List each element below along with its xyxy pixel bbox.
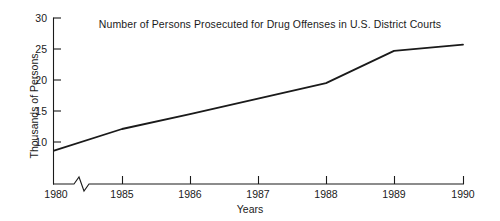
y-tick-marks <box>54 18 62 142</box>
y-tick-label-25: 25 <box>35 43 47 55</box>
x-tick-label-1988: 1988 <box>314 188 338 200</box>
chart-figure: Number of Persons Prosecuted for Drug Of… <box>0 0 500 221</box>
x-tick-label-1980: 1980 <box>44 188 68 200</box>
y-tick-label-15: 15 <box>35 105 47 117</box>
x-tick-marks <box>123 176 464 184</box>
x-tick-label-1989: 1989 <box>382 188 406 200</box>
y-tick-label-30: 30 <box>35 12 47 24</box>
x-tick-label-1985: 1985 <box>110 188 134 200</box>
x-tick-label-1986: 1986 <box>178 188 202 200</box>
y-tick-label-10: 10 <box>35 136 47 148</box>
plot-area: 30 25 20 15 10 1980 1985 1986 1987 1988 … <box>0 0 500 221</box>
x-tick-label-1987: 1987 <box>246 188 270 200</box>
data-series-line <box>54 45 463 151</box>
y-tick-label-20: 20 <box>35 74 47 86</box>
x-tick-label-1990: 1990 <box>451 188 475 200</box>
